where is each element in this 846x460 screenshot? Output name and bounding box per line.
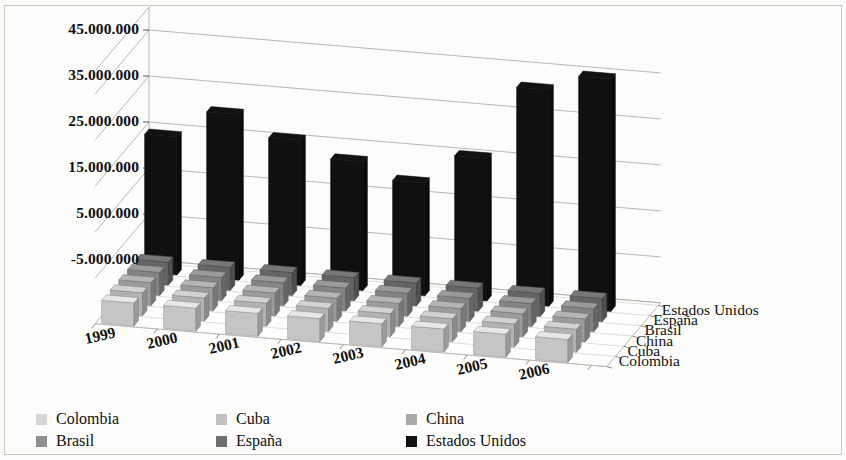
legend-row: BrasilEspañaEstados Unidos [36,430,676,452]
bar-front-face [350,321,382,347]
legend-label: Cuba [236,410,270,428]
legend-swatch-icon [216,436,227,447]
bar-front-face [102,300,134,326]
legend-label: Estados Unidos [426,432,526,450]
bar-front-face [412,326,444,352]
bar-side-face [487,153,492,301]
legend-row: ColombiaCubaChina [36,408,676,430]
legend-item-estados-unidos[interactable]: Estados Unidos [406,432,646,450]
y-axis-tick-label: 15.000.000 [0,158,139,176]
bar-estados-unidos-1999 [145,129,182,275]
legend-item-china[interactable]: China [406,410,646,428]
bar-colombia-2000 [164,300,201,331]
y-axis-tick-label: 5.000.000 [0,204,139,222]
legend-item-colombia[interactable]: Colombia [36,410,216,428]
bar-side-face [611,74,616,312]
bar-front-face [536,337,568,363]
bar-side-face [549,85,554,307]
legend-swatch-icon [36,436,47,447]
gridline-depth [95,30,149,94]
bar-front-face [288,316,320,342]
bar-colombia-2004 [412,321,449,352]
bar-front-face [474,332,506,358]
bar-side-face [239,109,244,280]
chart-legend: ColombiaCubaChinaBrasilEspañaEstados Uni… [36,408,676,452]
bar-colombia-2006 [536,331,573,362]
gridline-horizontal [149,30,661,73]
legend-label: Colombia [56,410,119,428]
bar-estados-unidos-2004 [455,150,492,301]
bar-front-face [579,76,611,311]
bar-colombia-2001 [226,305,263,336]
z-axis-tick-label: Colombia [619,352,680,370]
gridline-depth [95,122,149,186]
bar-estados-unidos-2006 [579,71,616,311]
bar-colombia-2005 [474,326,511,357]
bar-front-face [226,311,258,337]
legend-swatch-icon [406,414,417,425]
gridline-depth [95,76,149,140]
y-axis-tick-label: 25.000.000 [0,112,139,130]
legend-item-españa[interactable]: España [216,432,406,450]
bar-front-face [269,138,301,286]
chart-plot-area: 45.000.00035.000.00025.000.00015.000.000… [0,0,846,400]
gridline-depth [95,168,149,232]
y-axis-tick-label: 35.000.000 [0,66,139,84]
legend-item-cuba[interactable]: Cuba [216,410,406,428]
y-axis-tick-label: 45.000.000 [0,20,139,38]
bar-front-face [145,134,177,275]
bar-estados-unidos-2000 [207,107,244,281]
x-tick [588,365,592,370]
legend-label: China [426,410,464,428]
legend-item-brasil[interactable]: Brasil [36,432,216,450]
bar-side-face [425,178,430,296]
bar-estados-unidos-2005 [517,82,554,306]
z-tick [607,367,612,369]
legend-swatch-icon [406,436,417,447]
bar-front-face [517,87,549,306]
bar-front-face [207,112,239,280]
bar-colombia-2003 [350,316,387,347]
bar-side-face [301,135,306,285]
bar-front-face [164,306,196,332]
bar-estados-unidos-2002 [331,154,368,291]
legend-swatch-icon [216,414,227,425]
legend-swatch-icon [36,414,47,425]
chart-canvas [0,0,846,400]
bar-estados-unidos-2001 [269,133,306,286]
sidewall-top-edge [95,7,149,71]
y-axis-tick-label: -5.000.000 [0,250,139,268]
bar-side-face [363,157,368,291]
bar-colombia-1999 [102,295,139,326]
bar-front-face [455,156,487,301]
bar-side-face [177,132,182,275]
legend-label: Brasil [56,432,94,450]
legend-label: España [236,432,282,450]
bar-colombia-2002 [288,311,325,342]
